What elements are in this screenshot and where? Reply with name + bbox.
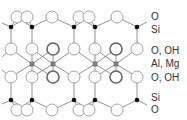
label-bottom-oxygen: O: [151, 104, 159, 115]
clay-structure-diagram: [0, 0, 150, 120]
lower-hydroxyl-bold: [47, 71, 122, 83]
label-lower-oxygen-hydroxyl: O, OH: [151, 72, 179, 83]
label-upper-oxygen-hydroxyl: O, OH: [151, 45, 179, 56]
bonds: [2, 17, 147, 110]
top-oxygen-layer: [11, 11, 123, 23]
upper-hydroxyl-bold: [47, 43, 122, 55]
label-aluminum-magnesium: Al, Mg: [151, 58, 179, 69]
bottom-oxygen-layer: [11, 104, 123, 116]
label-top-silicon: Si: [151, 24, 160, 35]
octahedral-cations: [30, 62, 118, 66]
label-top-oxygen: O: [151, 11, 159, 22]
label-bottom-silicon: Si: [151, 92, 160, 103]
